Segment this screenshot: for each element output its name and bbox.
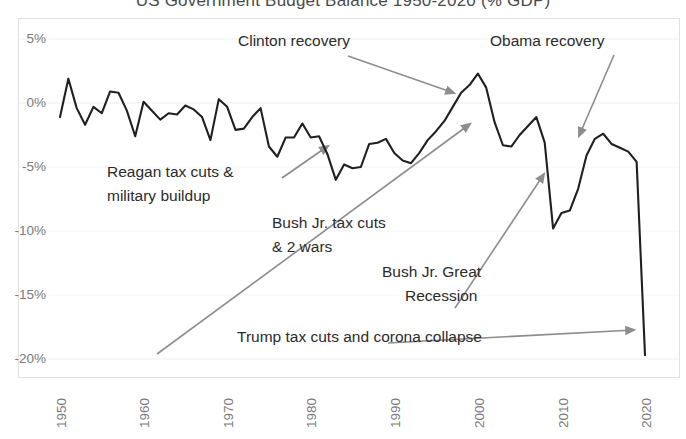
arrow-reagan-tax-cuts (282, 146, 328, 178)
x-tick-label: 1990 (388, 398, 403, 428)
y-tick-label: -15% (0, 287, 46, 302)
chart-container: US Government Budget Balance 1950-2020 (… (0, 0, 686, 439)
annotation-reagan-line1: Reagan tax cuts & (107, 162, 234, 181)
x-tick-label: 1970 (221, 398, 236, 428)
x-tick-label: 2020 (639, 398, 654, 428)
y-tick-label: 0% (0, 95, 46, 110)
annotation-clinton-recovery: Clinton recovery (238, 31, 350, 50)
arrow-obama-recovery (579, 55, 614, 136)
arrow-clinton-recovery (348, 56, 454, 93)
annotation-trump-corona: Trump tax cuts and corona collapse (237, 327, 482, 346)
annotation-bush-tax-cuts-line1: Bush Jr. tax cuts (272, 213, 386, 232)
x-tick-label: 2010 (556, 398, 571, 428)
annotation-bush-tax-cuts-line2: & 2 wars (272, 237, 332, 256)
x-tick-label: 1960 (137, 398, 152, 428)
x-tick-label: 1950 (54, 398, 69, 428)
y-tick-label: -5% (0, 159, 46, 174)
y-tick-label: -20% (0, 351, 46, 366)
annotation-reagan-line2: military buildup (107, 186, 210, 205)
y-tick-label: 5% (0, 31, 46, 46)
annotation-obama-recovery: Obama recovery (490, 31, 605, 50)
annotation-great-recession-line1: Bush Jr. Great (382, 262, 481, 281)
annotation-arrows (157, 55, 634, 354)
annotation-great-recession-line2: Recession (405, 286, 477, 305)
y-tick-label: -10% (0, 223, 46, 238)
x-tick-label: 1980 (304, 398, 319, 428)
x-tick-label: 2000 (472, 398, 487, 428)
